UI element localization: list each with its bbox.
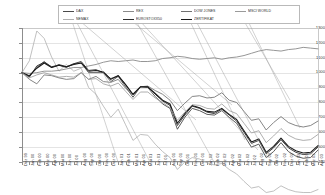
legend-label: ZERTIFIKAT — [194, 17, 214, 21]
legend-item: MSCI WORLD — [235, 7, 271, 15]
legend-leader-lines — [0, 0, 325, 195]
legend-label: REX — [136, 9, 143, 13]
legend-column-0: DAXNEMAX — [63, 6, 113, 23]
chart-legend: DAXNEMAX REXEUROSTOXX50 DOW JONESZERTIFI… — [58, 5, 300, 24]
legend-label: NEMAX — [76, 17, 89, 21]
legend-column-3: MSCI WORLD — [235, 6, 295, 23]
legend-swatch-icon — [63, 19, 74, 20]
legend-column-2: DOW JONESZERTIFIKAT — [181, 6, 239, 23]
legend-swatch-icon — [181, 19, 192, 20]
legend-item: EUROSTOXX50 — [123, 15, 162, 23]
legend-item: ZERTIFIKAT — [181, 15, 214, 23]
legend-swatch-icon — [63, 11, 74, 12]
legend-label: DOW JONES — [194, 9, 215, 13]
legend-label: MSCI WORLD — [248, 9, 271, 13]
legend-label: DAX — [76, 9, 83, 13]
legend-swatch-icon — [123, 19, 134, 20]
legend-item: REX — [123, 7, 143, 15]
legend-swatch-icon — [235, 11, 246, 12]
legend-label: EUROSTOXX50 — [136, 17, 162, 21]
legend-item: DAX — [63, 7, 83, 15]
legend-column-1: REXEUROSTOXX50 — [123, 6, 185, 23]
legend-item: NEMAX — [63, 15, 88, 23]
legend-swatch-icon — [123, 11, 134, 12]
legend-swatch-icon — [181, 11, 192, 12]
legend-item: DOW JONES — [181, 7, 215, 15]
chart-container: 1300120011001000900800700600500400 Dez 9… — [0, 0, 325, 195]
